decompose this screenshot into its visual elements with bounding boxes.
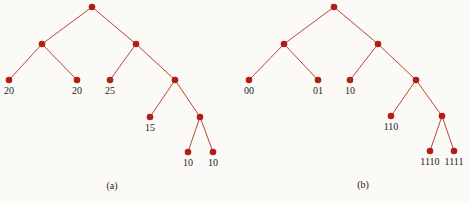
tree-b-node-RR	[413, 77, 420, 84]
tree-a-node-LL	[6, 77, 13, 84]
tree-a-edge-RRR-RRRL	[188, 117, 200, 152]
tree-b-edge-RRR-RRRL	[430, 116, 442, 151]
tree-a-node-RRRL	[185, 149, 192, 156]
tree-a-leaf-label-RRL: 15	[145, 122, 155, 133]
tree-b-leaf-label-LR: 01	[313, 85, 323, 96]
tree-b-node-RL	[347, 77, 354, 84]
tree-a-edge-R-RL	[110, 44, 136, 80]
tree-a-leaf-label-RRRR: 10	[208, 157, 218, 168]
tree-b-node-LR	[315, 77, 322, 84]
tree-a-edge-RR-RRL	[150, 80, 175, 117]
tree-b-leaf-label-RRRL: 1110	[420, 156, 439, 167]
tree-b-edge-r-L	[284, 7, 334, 44]
tree-b-edge-RRR-RRRR	[442, 116, 454, 151]
tree-b-edge-L-LL	[249, 44, 284, 80]
tree-b-leaf-label-RRL: 110	[384, 121, 399, 132]
tree-b-node-L	[281, 41, 288, 48]
tree-b-edge-L-LR	[284, 44, 318, 80]
caption-b: (b)	[357, 179, 369, 191]
tree-b-edge-r-R	[334, 7, 378, 44]
tree-a-leaf-label-RL: 25	[105, 85, 115, 96]
tree-a-leaf-label-LL: 20	[4, 85, 14, 96]
binary-tree-figure: 202025151010 00011011011101111 (a) (b)	[0, 0, 469, 203]
tree-a-node-LR	[74, 77, 81, 84]
tree-b-edge-R-RL	[350, 44, 378, 80]
tree-a-edge-r-R	[92, 7, 136, 44]
tree-b-leaf-label-RRRR: 1111	[445, 156, 464, 167]
tree-a-edge-L-LL	[9, 44, 42, 80]
tree-a-leaf-label-LR: 20	[72, 85, 82, 96]
tree-a-node-RR	[172, 77, 179, 84]
tree-b-leaf-label-RL: 10	[345, 85, 355, 96]
tree-b-node-r	[331, 4, 338, 11]
tree-a-edge-L-LR	[42, 44, 77, 80]
tree-a-node-RRL	[147, 114, 154, 121]
tree-b-edge-RR-RRR	[416, 80, 442, 116]
tree-a-leaf-label-RRRL: 10	[183, 157, 193, 168]
tree-a-edge-r-L	[42, 7, 92, 44]
tree-b-node-LL	[246, 77, 253, 84]
tree-b-node-R	[375, 41, 382, 48]
tree-b-leaf-label-LL: 00	[244, 85, 254, 96]
tree-b-node-RRR	[439, 113, 446, 120]
tree-a-node-RRR	[197, 114, 204, 121]
tree-b-edge-RR-RRL	[391, 80, 416, 116]
tree-b: 00011011011101111	[244, 4, 463, 167]
tree-a-node-r	[89, 4, 96, 11]
tree-a: 202025151010	[4, 4, 218, 168]
tree-b-node-RRL	[388, 113, 395, 120]
tree-a-node-L	[39, 41, 46, 48]
tree-b-node-RRRR	[451, 148, 458, 155]
tree-b-edge-R-RR	[378, 44, 416, 80]
tree-a-edge-RR-RRR	[175, 80, 200, 117]
tree-a-node-RRRR	[210, 149, 217, 156]
tree-a-node-R	[133, 41, 140, 48]
tree-a-edge-R-RR	[136, 44, 175, 80]
tree-b-node-RRRL	[427, 148, 434, 155]
tree-a-edge-RRR-RRRR	[200, 117, 213, 152]
tree-a-node-RL	[107, 77, 114, 84]
caption-a: (a)	[106, 180, 117, 192]
